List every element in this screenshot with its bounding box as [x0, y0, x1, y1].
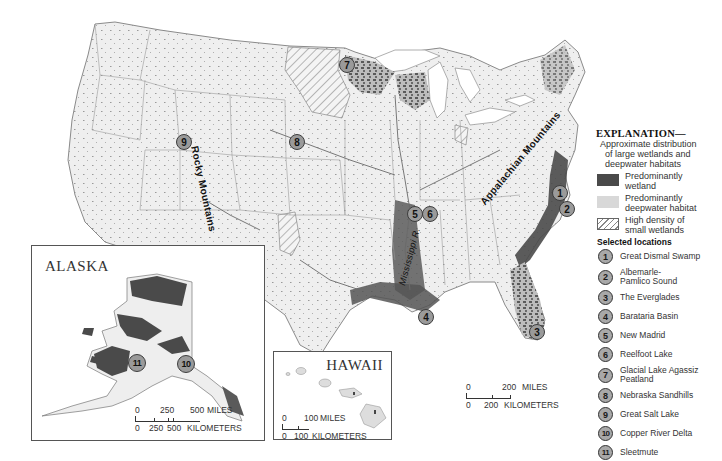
- location-item[interactable]: 5New Madrid: [598, 326, 722, 345]
- location-number-badge: 11: [598, 445, 613, 460]
- location-number-badge: 1: [598, 249, 613, 264]
- hatch-swatch: [597, 218, 619, 230]
- location-number-badge: 9: [598, 407, 613, 422]
- location-number-badge: 2: [598, 270, 613, 285]
- deepwater-swatch: [597, 196, 619, 208]
- hawaii-scale-bar: 0 100 MILES 0 100 KILOMETERS: [282, 414, 392, 442]
- location-number-badge: 5: [598, 328, 613, 343]
- location-item[interactable]: 2Albemarle-Pamlico Sound: [598, 266, 722, 288]
- marker-3[interactable]: 3: [529, 324, 545, 340]
- marker-8[interactable]: 8: [289, 134, 305, 150]
- location-item[interactable]: 6Reelfoot Lake: [598, 345, 722, 364]
- main-scale-bar: 0 200 MILES 0 200 KILOMETERS: [466, 383, 566, 411]
- legend-item-wetland: Predominantly wetland: [597, 172, 722, 191]
- location-item[interactable]: 10Copper River Delta: [598, 424, 722, 443]
- marker-10[interactable]: 10: [177, 355, 195, 373]
- marker-6[interactable]: 6: [422, 206, 438, 222]
- legend-subtitle: Approximate distribution of large wetlan…: [600, 139, 722, 169]
- location-item[interactable]: 3The Everglades: [598, 288, 722, 307]
- selected-locations-list: 1Great Dismal Swamp 2Albemarle-Pamlico S…: [594, 247, 722, 461]
- alaska-inset: ALASKA 11 10 0 250 500 MILES 0 250 500 K…: [31, 245, 265, 441]
- marker-7[interactable]: 7: [339, 57, 355, 73]
- legend-item-small-wetlands: High density of small wetlands: [597, 216, 722, 235]
- location-item[interactable]: 11Sleetmute: [598, 443, 722, 461]
- alaska-scale-bar: 0 250 500 MILES 0 250 500 KILOMETERS: [135, 406, 255, 434]
- location-item[interactable]: 9Great Salt Lake: [598, 405, 722, 424]
- location-item[interactable]: 7Glacial Lake Agassiz Peatland: [598, 364, 722, 386]
- legend: EXPLANATION— Approximate distribution of…: [594, 128, 722, 461]
- marker-5[interactable]: 5: [407, 206, 423, 222]
- location-number-badge: 4: [598, 309, 613, 324]
- location-number-badge: 8: [598, 388, 613, 403]
- location-item[interactable]: 8Nebraska Sandhills: [598, 386, 722, 405]
- marker-9[interactable]: 9: [176, 134, 192, 150]
- marker-1[interactable]: 1: [552, 185, 568, 201]
- location-number-badge: 6: [598, 347, 613, 362]
- location-number-badge: 3: [598, 290, 613, 305]
- location-item[interactable]: 1Great Dismal Swamp: [598, 247, 722, 266]
- selected-locations-title: Selected locations: [597, 237, 722, 247]
- location-number-badge: 7: [598, 368, 613, 383]
- marker-4[interactable]: 4: [418, 309, 434, 325]
- marker-11[interactable]: 11: [128, 354, 146, 372]
- wetland-swatch: [597, 174, 619, 186]
- marker-2[interactable]: 2: [559, 201, 575, 217]
- legend-title: EXPLANATION—: [596, 128, 722, 139]
- legend-item-deepwater: Predominantly deepwater habitat: [597, 194, 722, 213]
- location-item[interactable]: 4Barataria Basin: [598, 307, 722, 326]
- location-number-badge: 10: [598, 426, 613, 441]
- hawaii-inset: HAWAII 0 100 MILES 0 100 KILOMETERS: [273, 351, 392, 440]
